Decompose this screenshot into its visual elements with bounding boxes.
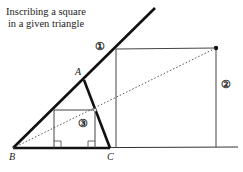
diagonal-line [13,48,216,148]
label-c: C [107,151,114,162]
geometry [0,0,243,172]
side-ac [84,80,110,148]
label-b: B [9,151,15,162]
inscribed-square [54,110,95,148]
diagram: Inscribing a square in a given triangle … [0,0,243,172]
intersection-dot [94,109,97,112]
label-a: A [75,66,81,77]
marker-1: ① [95,40,105,53]
marker-3: ③ [78,117,88,130]
large-square [116,48,216,148]
marker-2: ② [221,78,231,91]
